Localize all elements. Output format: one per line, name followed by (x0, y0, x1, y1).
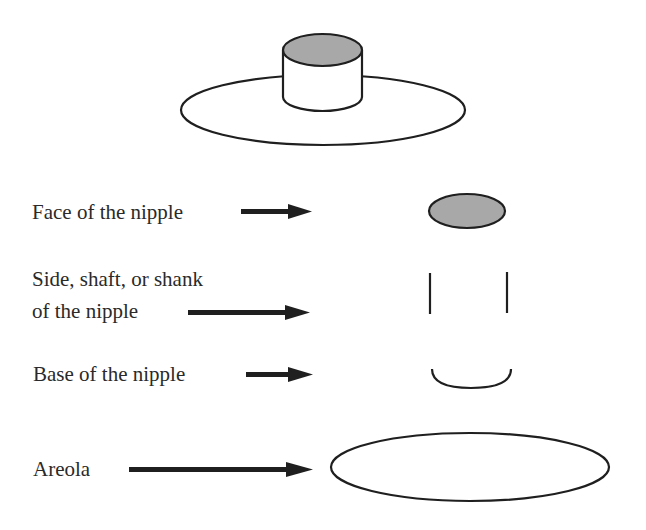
areola-arrow-icon (129, 462, 313, 477)
side-label-line1: Side, shaft, or shank (32, 266, 203, 292)
face-arrow-icon (241, 204, 312, 219)
assembled-nipple-illustration (181, 34, 465, 145)
nipple-anatomy-diagram: Face of the nipple Side, shaft, or shank… (0, 0, 646, 530)
exploded-parts (331, 194, 609, 501)
areola-shape (331, 433, 609, 501)
base-arrow-icon (246, 367, 313, 382)
areola-label: Areola (33, 456, 90, 482)
base-arc (432, 369, 511, 388)
face-label: Face of the nipple (32, 199, 183, 225)
base-label: Base of the nipple (33, 361, 185, 387)
face-shape (429, 194, 505, 228)
assembled-face (283, 34, 362, 66)
diagram-graphics (0, 0, 646, 530)
side-arrow-icon (188, 305, 310, 320)
arrows (129, 204, 313, 477)
side-label-line2: of the nipple (32, 298, 138, 324)
